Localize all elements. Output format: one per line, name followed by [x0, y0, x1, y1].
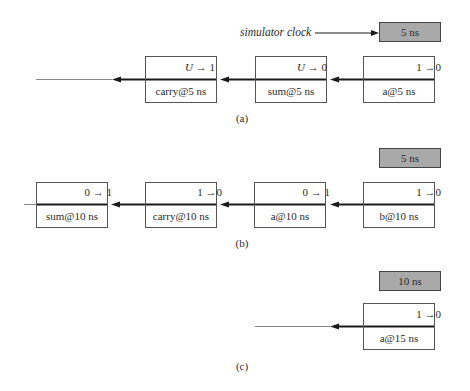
transition-arrow-icon: → — [425, 308, 436, 320]
clock-value-a: 5 ns — [379, 22, 441, 42]
transition-arrow-icon: → — [308, 61, 319, 73]
event-name-carry-10: carry@10 ns — [145, 210, 217, 222]
transition-arrow-icon: → — [311, 186, 322, 198]
caption-b: (b) — [222, 237, 262, 249]
event-value-carry-10: 1 →0 — [145, 186, 222, 198]
event-name-a-5: a@5 ns — [363, 85, 435, 97]
event-value-sum-10: 0 → 1 — [36, 186, 112, 198]
clock-pointer-arrowhead — [371, 30, 379, 36]
transition-arrow-icon: → — [206, 186, 217, 198]
transition-arrow-icon: → — [425, 186, 436, 198]
event-value-a-15: 1 →0 — [363, 308, 441, 320]
transition-arrow-icon: → — [425, 61, 436, 73]
event-value-a-5: 1 →0 — [363, 61, 441, 73]
clock-value-b: 5 ns — [379, 148, 441, 168]
clock-value-c: 10 ns — [379, 271, 441, 291]
event-name-sum-10: sum@10 ns — [36, 210, 108, 222]
event-name-carry-5: carry@5 ns — [145, 85, 217, 97]
caption-c: (c) — [222, 360, 262, 372]
event-name-a-10: a@10 ns — [254, 210, 326, 222]
transition-arrow-icon: → — [93, 186, 104, 198]
simulator-clock-label: simulator clock — [240, 26, 311, 38]
caption-a: (a) — [222, 112, 262, 124]
event-name-a-15: a@15 ns — [363, 332, 435, 344]
event-value-sum-5: U → 0 — [255, 61, 327, 73]
event-name-b-10: b@10 ns — [363, 210, 435, 222]
event-value-carry-5: U → 1 — [145, 61, 215, 73]
event-name-sum-5: sum@5 ns — [255, 85, 327, 97]
event-value-a-10: 0 → 1 — [254, 186, 330, 198]
event-value-b-10: 1 →0 — [363, 186, 441, 198]
transition-arrow-icon: → — [196, 61, 207, 73]
